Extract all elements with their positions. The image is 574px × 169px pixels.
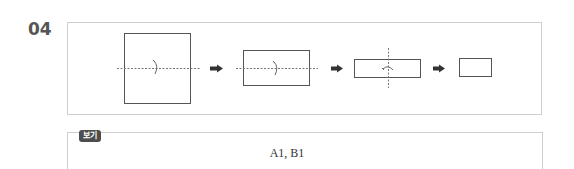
fold-arrow-icon [154, 61, 157, 74]
bogi-badge: 보기 [79, 130, 101, 142]
step-3-rectangle [355, 48, 421, 88]
right-arrow-icon [331, 65, 343, 73]
step-1-square [117, 34, 200, 104]
right-arrow-icon [433, 65, 445, 73]
step-2-rectangle [236, 51, 318, 86]
step-4-rectangle [460, 59, 492, 77]
bogi-content: A1, B1 [0, 146, 574, 161]
right-arrow-icon [210, 65, 223, 73]
